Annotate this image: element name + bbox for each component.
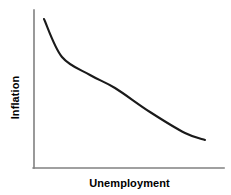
chart-figure: Inflation Unemployment bbox=[0, 0, 231, 195]
y-axis-label-text: Inflation bbox=[11, 76, 22, 120]
y-axis-label: Inflation bbox=[0, 0, 40, 195]
phillips-curve-line bbox=[44, 19, 205, 140]
x-axis-label: Unemployment bbox=[34, 178, 225, 189]
